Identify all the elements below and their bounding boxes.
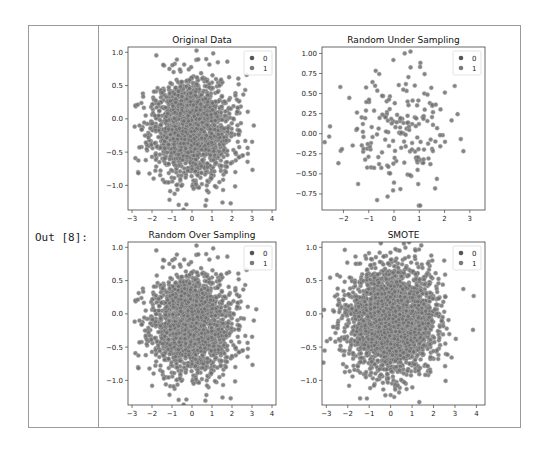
x-tick-label: 3 bbox=[250, 410, 254, 418]
y-tick-label: −0.75 bbox=[296, 190, 317, 198]
x-tick-label: −2 bbox=[147, 410, 157, 418]
subplot-title: SMOTE bbox=[388, 230, 420, 240]
x-tick-label: −1 bbox=[364, 410, 374, 418]
legend-marker-icon bbox=[459, 66, 464, 71]
legend-label: 1 bbox=[263, 260, 267, 268]
subplot-title: Random Over Sampling bbox=[149, 230, 256, 240]
legend-marker-icon bbox=[459, 251, 464, 256]
x-tick-label: −3 bbox=[127, 215, 137, 223]
x-tick-label: −2 bbox=[338, 215, 348, 223]
scatter-points bbox=[323, 33, 466, 231]
x-tick-label: 0 bbox=[388, 410, 392, 418]
legend-label: 0 bbox=[472, 250, 476, 258]
y-tick-label: −0.5 bbox=[106, 344, 123, 352]
subplot-1: Random Under Sampling−2−101231.000.750.5… bbox=[296, 33, 485, 231]
x-tick-label: 2 bbox=[442, 215, 446, 223]
x-tick-label: 0 bbox=[190, 410, 194, 418]
x-tick-label: −2 bbox=[343, 410, 353, 418]
x-tick-label: 0 bbox=[190, 215, 194, 223]
x-tick-label: −1 bbox=[167, 410, 177, 418]
scatter-points bbox=[310, 213, 476, 415]
x-tick-label: 2 bbox=[230, 410, 234, 418]
y-tick-label: −0.5 bbox=[300, 344, 317, 352]
figure: Original Data−3−2−1012341.00.50.0−0.5−1.… bbox=[0, 0, 550, 452]
y-tick-label: 1.0 bbox=[112, 49, 123, 57]
y-tick-label: 0.50 bbox=[301, 90, 317, 98]
legend: 01 bbox=[453, 246, 481, 270]
legend-marker-icon bbox=[250, 66, 255, 71]
x-tick-label: 1 bbox=[210, 215, 214, 223]
y-tick-label: −1.0 bbox=[300, 377, 317, 385]
legend: 01 bbox=[244, 246, 272, 270]
x-tick-label: 0 bbox=[392, 215, 396, 223]
legend-label: 0 bbox=[472, 55, 476, 63]
subplot-3: SMOTE−3−2−1012341.00.50.0−0.5−1.001 bbox=[300, 213, 485, 418]
y-tick-label: 0.75 bbox=[301, 70, 317, 78]
y-tick-label: −1.0 bbox=[106, 377, 123, 385]
y-tick-label: 1.00 bbox=[301, 50, 317, 58]
legend-label: 1 bbox=[472, 65, 476, 73]
y-tick-label: 0.5 bbox=[306, 277, 317, 285]
subplot-2: Random Over Sampling−3−2−1012341.00.50.0… bbox=[106, 227, 286, 418]
y-tick-label: 0.25 bbox=[301, 110, 317, 118]
y-tick-label: 0.0 bbox=[112, 310, 123, 318]
x-tick-label: −3 bbox=[321, 410, 331, 418]
x-tick-label: 1 bbox=[410, 410, 414, 418]
y-tick-label: 0.00 bbox=[301, 130, 317, 138]
x-tick-label: 2 bbox=[230, 215, 234, 223]
legend-label: 0 bbox=[263, 55, 267, 63]
legend-marker-icon bbox=[250, 56, 255, 61]
legend: 01 bbox=[244, 51, 272, 75]
x-tick-label: 4 bbox=[270, 410, 275, 418]
x-tick-label: 4 bbox=[474, 410, 479, 418]
legend-marker-icon bbox=[459, 56, 464, 61]
y-tick-label: 1.0 bbox=[112, 244, 123, 252]
y-tick-label: −1.0 bbox=[106, 182, 123, 190]
y-tick-label: 0.5 bbox=[112, 277, 123, 285]
legend-label: 1 bbox=[263, 65, 267, 73]
x-tick-label: −2 bbox=[147, 215, 157, 223]
x-tick-label: 1 bbox=[210, 410, 214, 418]
y-tick-label: 1.0 bbox=[306, 244, 317, 252]
legend-label: 0 bbox=[263, 250, 267, 258]
y-tick-label: −0.25 bbox=[296, 150, 317, 158]
subplot-title: Original Data bbox=[172, 35, 232, 45]
legend-marker-icon bbox=[250, 251, 255, 256]
x-tick-label: 2 bbox=[431, 410, 435, 418]
x-tick-label: 1 bbox=[417, 215, 421, 223]
legend: 01 bbox=[453, 51, 481, 75]
subplot-0: Original Data−3−2−1012341.00.50.0−0.5−1.… bbox=[106, 32, 286, 223]
y-tick-label: 0.5 bbox=[112, 82, 123, 90]
x-tick-label: −1 bbox=[364, 215, 374, 223]
y-tick-label: −0.5 bbox=[106, 149, 123, 157]
x-tick-label: 4 bbox=[270, 215, 275, 223]
x-tick-label: −1 bbox=[167, 215, 177, 223]
subplot-title: Random Under Sampling bbox=[347, 35, 459, 45]
x-tick-label: 3 bbox=[250, 215, 254, 223]
x-tick-label: 3 bbox=[453, 410, 457, 418]
y-tick-label: −0.50 bbox=[296, 170, 317, 178]
x-tick-label: 3 bbox=[468, 215, 472, 223]
y-tick-label: 0.0 bbox=[112, 115, 123, 123]
legend-label: 1 bbox=[472, 260, 476, 268]
legend-marker-icon bbox=[459, 261, 464, 266]
legend-marker-icon bbox=[250, 261, 255, 266]
x-tick-label: −3 bbox=[127, 410, 137, 418]
y-tick-label: 0.0 bbox=[306, 310, 317, 318]
